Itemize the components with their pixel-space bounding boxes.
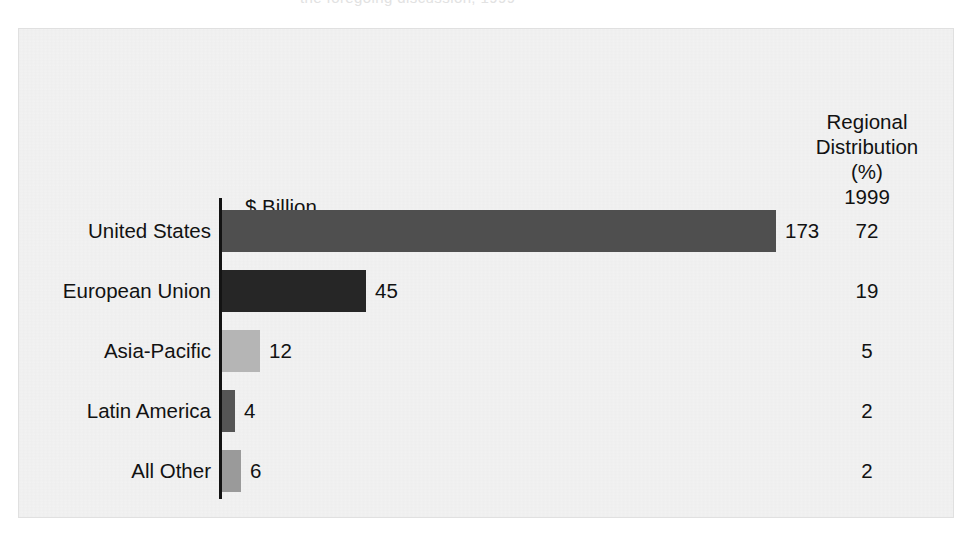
- plot-area: United States17372European Union4519Asia…: [19, 29, 955, 519]
- bar-value-label: 45: [375, 279, 398, 303]
- chart-row: European Union4519: [19, 261, 955, 321]
- bar-value-label: 173: [785, 219, 819, 243]
- share-percent-label: 72: [829, 219, 905, 243]
- category-label: All Other: [131, 459, 211, 483]
- bar-value-label: 6: [250, 459, 261, 483]
- chart-row: Latin America42: [19, 381, 955, 441]
- share-percent-label: 19: [829, 279, 905, 303]
- chart-frame: Regional Distribution (%) 1999 $ Billion…: [18, 28, 954, 518]
- top-bleed-text: the foregoing discussion, 1999: [300, 0, 515, 6]
- share-percent-label: 2: [829, 459, 905, 483]
- bar-value-label: 4: [244, 399, 255, 423]
- bar: [222, 390, 235, 432]
- category-label: Latin America: [87, 399, 211, 423]
- category-label: European Union: [63, 279, 211, 303]
- category-label: Asia-Pacific: [104, 339, 211, 363]
- share-percent-label: 5: [829, 339, 905, 363]
- share-percent-label: 2: [829, 399, 905, 423]
- chart-row: All Other62: [19, 441, 955, 501]
- page-top-bleed: the foregoing discussion, 1999: [0, 0, 972, 6]
- category-label: United States: [88, 219, 211, 243]
- bar: [222, 270, 366, 312]
- bar: [222, 450, 241, 492]
- chart-screenshot: the foregoing discussion, 1999 Regional …: [0, 0, 972, 544]
- bar: [222, 330, 260, 372]
- bar-value-label: 12: [269, 339, 292, 363]
- chart-row: Asia-Pacific125: [19, 321, 955, 381]
- chart-row: United States17372: [19, 201, 955, 261]
- bar: [222, 210, 776, 252]
